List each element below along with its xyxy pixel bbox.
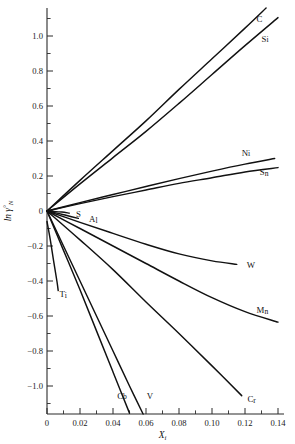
curve-label-sn: Sn (260, 167, 269, 178)
y-tick-label-3: −0.4 (27, 276, 43, 286)
curve-label-si: Si (262, 34, 269, 45)
activity-coefficient-line-chart: −1.0−0.8−0.6−0.4−0.200.20.40.60.81.0 00.… (0, 0, 295, 444)
x-tick-label-6: 0.12 (237, 418, 252, 428)
y-tick-label-2: −0.6 (27, 311, 43, 321)
x-tick-label-5: 0.10 (204, 418, 219, 428)
curve-label-v: V (147, 391, 154, 401)
y-tick-label-0: −1.0 (27, 381, 43, 391)
x-tick-label-2: 0.04 (105, 418, 121, 428)
curve-label-c: C (257, 14, 263, 24)
y-tick-label-10: 1.0 (32, 31, 43, 41)
y-tick-label-5: 0 (39, 206, 43, 216)
x-tick-label-7: 0.14 (270, 418, 286, 428)
curve-label-cb: Cb (117, 391, 127, 402)
x-tick-label-1: 0.02 (72, 418, 87, 428)
y-tick-label-8: 0.6 (32, 101, 43, 111)
x-tick-label-3: 0.06 (138, 418, 154, 428)
x-tick-label-0: 0 (45, 418, 49, 428)
curve-label-w: W (247, 260, 256, 270)
y-tick-label-1: −0.8 (27, 346, 43, 356)
y-tick-label-6: 0.2 (32, 171, 43, 181)
curve-label-al: Al (89, 214, 97, 225)
curve-label-s: S (76, 209, 81, 219)
x-tick-label-4: 0.08 (171, 418, 186, 428)
chart-background (0, 0, 295, 444)
curve-label-ti: Ti (59, 289, 67, 300)
y-tick-label-7: 0.4 (32, 136, 43, 146)
y-tick-label-9: 0.8 (32, 66, 43, 76)
curve-label-cr: Cr (247, 394, 256, 405)
curve-label-ni: Ni (242, 148, 250, 159)
chart-figure: −1.0−0.8−0.6−0.4−0.200.20.40.60.81.0 00.… (0, 0, 295, 444)
curve-label-mn: Mn (257, 305, 269, 316)
y-tick-label-4: −0.2 (27, 241, 43, 251)
